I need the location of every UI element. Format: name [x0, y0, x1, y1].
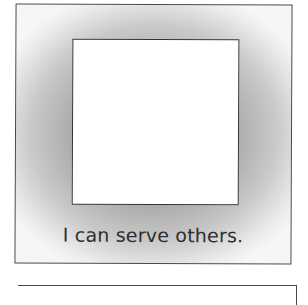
affirmation-card: I can serve others.: [14, 3, 292, 264]
drawing-box: [72, 39, 240, 206]
card-caption: I can serve others.: [16, 223, 291, 246]
next-affirmation-card: [18, 285, 297, 305]
